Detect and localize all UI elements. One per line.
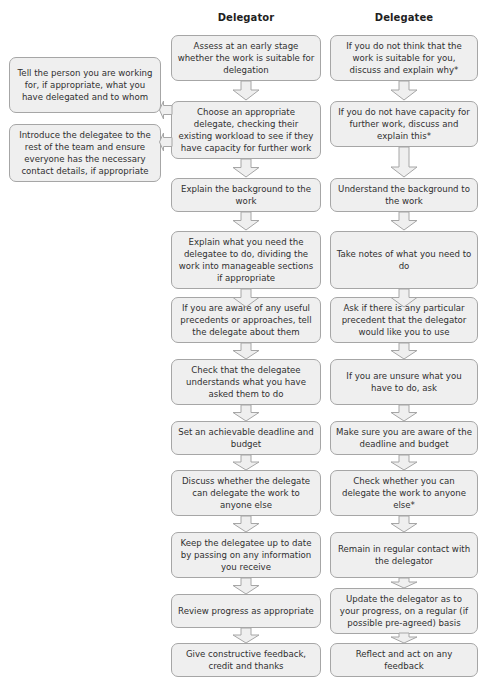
arrow-down-delegatee-8-9	[390, 516, 418, 533]
step-delegator-2[interactable]: Choose an appropriate delegate, checking…	[171, 101, 321, 159]
step-delegatee-10-label: Update the delegator as to your progress…	[336, 593, 472, 630]
arrow-down-delegatee-6-7	[390, 405, 418, 422]
step-delegator-6-label: Check that the delegatee understands wha…	[177, 364, 315, 401]
note-tell-person-label: Tell the person you are working for, if …	[15, 67, 155, 104]
step-delegator-10[interactable]: Review progress as appropriate	[171, 594, 321, 628]
step-delegator-9[interactable]: Keep the delegatee up to date by passing…	[171, 532, 321, 578]
arrow-down-delegator-1-2	[232, 81, 260, 101]
flowchart-canvas: Delegator Delegatee Tell the person you …	[0, 0, 488, 678]
column-heading-delegatee: Delegatee	[330, 12, 478, 23]
step-delegatee-3-label: Understand the background to the work	[336, 183, 472, 207]
step-delegatee-8[interactable]: Check whether you can delegate the work …	[330, 470, 478, 516]
arrow-down-delegatee-1-2	[390, 81, 418, 101]
step-delegator-1[interactable]: Assess at an early stage whether the wor…	[171, 35, 321, 81]
step-delegatee-4[interactable]: Take notes of what you need to do	[330, 231, 478, 289]
step-delegatee-11-label: Reflect and act on any feedback	[336, 648, 472, 672]
step-delegatee-6-label: If you are unsure what you have to do, a…	[336, 370, 472, 394]
step-delegator-11[interactable]: Give constructive feedback, credit and t…	[171, 643, 321, 677]
step-delegator-6[interactable]: Check that the delegatee understands wha…	[171, 359, 321, 405]
note-introduce-delegatee[interactable]: Introduce the delegatee to the rest of t…	[9, 124, 161, 182]
step-delegatee-11[interactable]: Reflect and act on any feedback	[330, 643, 478, 677]
step-delegator-3-label: Explain the background to the work	[177, 183, 315, 207]
step-delegatee-7[interactable]: Make sure you are aware of the deadline …	[330, 421, 478, 455]
step-delegatee-7-label: Make sure you are aware of the deadline …	[336, 426, 472, 450]
arrow-down-delegatee-7-8	[390, 455, 418, 471]
step-delegatee-4-label: Take notes of what you need to do	[336, 248, 472, 272]
arrow-down-delegator-8-9	[232, 516, 260, 533]
step-delegator-10-label: Review progress as appropriate	[177, 605, 315, 617]
arrow-down-delegatee-2-3	[390, 147, 418, 178]
arrow-down-delegator-6-7	[232, 405, 260, 422]
step-delegator-2-label: Choose an appropriate delegate, checking…	[177, 106, 315, 155]
step-delegatee-8-label: Check whether you can delegate the work …	[336, 475, 472, 512]
step-delegatee-6[interactable]: If you are unsure what you have to do, a…	[330, 359, 478, 405]
note-introduce-delegatee-label: Introduce the delegatee to the rest of t…	[15, 129, 155, 178]
arrow-down-delegator-5-6	[232, 343, 260, 360]
step-delegator-7-label: Set an achievable deadline and budget	[177, 426, 315, 450]
step-delegator-7[interactable]: Set an achievable deadline and budget	[171, 421, 321, 455]
step-delegatee-9-label: Remain in regular contact with the deleg…	[336, 543, 472, 567]
step-delegatee-2-label: If you do not have capacity for further …	[336, 106, 472, 143]
step-delegatee-3[interactable]: Understand the background to the work	[330, 178, 478, 212]
column-heading-delegator: Delegator	[171, 12, 321, 23]
arrow-down-delegator-9-10	[232, 578, 260, 595]
step-delegator-3[interactable]: Explain the background to the work	[171, 178, 321, 212]
arrow-down-delegatee-5-6	[390, 343, 418, 360]
arrow-down-delegator-7-8	[232, 455, 260, 471]
step-delegator-8[interactable]: Discuss whether the delegate can delegat…	[171, 470, 321, 516]
step-delegator-4[interactable]: Explain what you need the delegatee to d…	[171, 231, 321, 289]
step-delegatee-2[interactable]: If you do not have capacity for further …	[330, 101, 478, 147]
step-delegator-5[interactable]: If you are aware of any useful precedent…	[171, 297, 321, 343]
step-delegator-4-label: Explain what you need the delegatee to d…	[177, 236, 315, 285]
step-delegatee-9[interactable]: Remain in regular contact with the deleg…	[330, 532, 478, 578]
arrow-down-delegator-10-11	[232, 628, 260, 644]
note-tell-person[interactable]: Tell the person you are working for, if …	[9, 57, 161, 113]
step-delegator-5-label: If you are aware of any useful precedent…	[177, 302, 315, 339]
step-delegatee-1[interactable]: If you do not think that the work is sui…	[330, 35, 478, 81]
step-delegatee-5[interactable]: Ask if there is any particular precedent…	[330, 297, 478, 343]
step-delegator-11-label: Give constructive feedback, credit and t…	[177, 648, 315, 672]
step-delegator-8-label: Discuss whether the delegate can delegat…	[177, 475, 315, 512]
step-delegatee-5-label: Ask if there is any particular precedent…	[336, 302, 472, 339]
step-delegatee-1-label: If you do not think that the work is sui…	[336, 40, 472, 77]
step-delegatee-10[interactable]: Update the delegator as to your progress…	[330, 588, 478, 634]
arrow-down-delegator-3-4	[232, 212, 260, 231]
arrow-down-delegator-2-3	[232, 159, 260, 178]
step-delegator-9-label: Keep the delegatee up to date by passing…	[177, 537, 315, 574]
arrow-down-delegatee-3-4	[390, 212, 418, 231]
step-delegator-1-label: Assess at an early stage whether the wor…	[177, 40, 315, 77]
